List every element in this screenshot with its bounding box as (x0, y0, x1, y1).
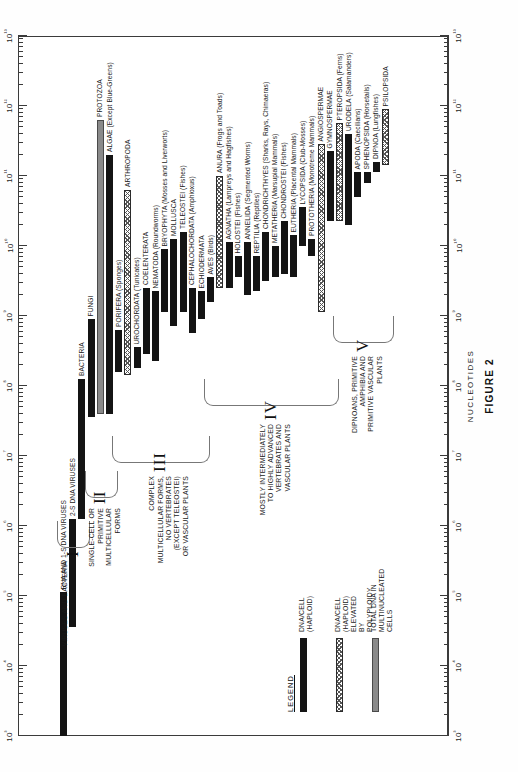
axis-tick-minor (444, 261, 449, 262)
axis-tick-minor (444, 611, 449, 612)
axis-tick-minor (444, 396, 449, 397)
axis-tick-minor (18, 318, 23, 319)
axis-tick-minor (444, 434, 449, 435)
axis-decade-label: 10¹³ (452, 29, 463, 43)
axis-tick-minor (18, 248, 23, 249)
axis-tick-minor (444, 322, 449, 323)
group-description: COMPLEX MULTICELLULAR FORMS, NO VERTEBRA… (148, 476, 190, 568)
axis-tick-minor (18, 681, 23, 682)
axis-decade-label: 10¹⁰ (452, 239, 464, 253)
taxon-bar (226, 243, 233, 289)
axis-tick-minor (444, 471, 449, 472)
legend-swatch-multi (372, 638, 379, 712)
axis-tick-major (440, 385, 449, 386)
taxon-bar-label: 2-S DNA VIRUSES (68, 458, 75, 516)
axis-tick-minor (444, 273, 449, 274)
axis-tick-minor (18, 294, 23, 295)
taxon-bar (262, 232, 269, 281)
axis-tick-minor (18, 256, 23, 257)
axis-tick-minor (18, 672, 23, 673)
axis-tick-minor (18, 38, 23, 39)
axis-tick-major (18, 735, 27, 736)
axis-tick-minor (18, 536, 23, 537)
group-description: VIRUSES AND BACTERIA (61, 561, 69, 653)
axis-tick-minor (444, 326, 449, 327)
axis-tick-minor (18, 606, 23, 607)
taxon-bar (216, 176, 223, 288)
axis-tick-minor (444, 483, 449, 484)
axis-tick-minor (18, 142, 23, 143)
axis-tick-minor (444, 528, 449, 529)
axis-tick-minor (444, 178, 449, 179)
axis-tick-minor (18, 56, 23, 57)
axis-tick-minor (444, 191, 449, 192)
axis-tick-minor (444, 182, 449, 183)
axis-tick-minor (18, 413, 23, 414)
group-roman-numeral: I (63, 550, 83, 557)
axis-tick-major (440, 735, 449, 736)
axis-tick-minor (444, 504, 449, 505)
axis-tick-minor (18, 406, 23, 407)
axis-tick-minor (18, 546, 23, 547)
axis-tick-minor (444, 602, 449, 603)
axis-tick-minor (18, 598, 23, 599)
axis-tick-major (18, 455, 27, 456)
axis-tick-minor (444, 546, 449, 547)
axis-tick-minor (444, 46, 449, 47)
axis-tick-minor (18, 632, 23, 633)
axis-tick-minor (18, 266, 23, 267)
taxon-bar-label: CHONDROSTEI (Fishes) (280, 142, 287, 218)
axis-tick-minor (444, 536, 449, 537)
axis-tick-minor (444, 282, 449, 283)
axis-tick-minor (18, 191, 23, 192)
axis-tick-minor (18, 352, 23, 353)
axis-tick-minor (18, 154, 23, 155)
axis-tick-minor (444, 248, 449, 249)
taxon-bar-label: UROCHORDATA (Tunicates) (133, 257, 140, 344)
taxon-bar-label: ANNELIDA (Segmented Worms) (243, 142, 250, 240)
taxon-bar (382, 110, 389, 166)
taxon-bar-label: HOLOSTEI (Fishes) (234, 193, 241, 254)
taxon-bar-label: ARTHROPODA (123, 140, 130, 187)
taxon-bar-label: BRYOPHYTA (Mosses and Liverworts) (160, 130, 167, 247)
axis-tick-minor (18, 336, 23, 337)
axis-tick-minor (444, 714, 449, 715)
figure-page: 10³10³10⁴10⁴10⁵10⁵10⁶10⁶10⁷10⁷10⁸10⁸10⁹1… (0, 0, 518, 772)
taxon-bar (318, 145, 325, 313)
axis-tick-minor (444, 154, 449, 155)
axis-tick-minor (444, 644, 449, 645)
taxon-bar (189, 288, 196, 334)
axis-decade-label: 10⁶ (3, 520, 14, 532)
taxon-bar (373, 162, 380, 173)
axis-tick-minor (444, 266, 449, 267)
axis-decade-label: 10⁹ (3, 310, 14, 322)
axis-tick-minor (18, 458, 23, 459)
axis-tick-major (18, 245, 27, 246)
axis-tick-minor (444, 364, 449, 365)
axis-tick-minor (18, 112, 23, 113)
axis-tick-minor (444, 318, 449, 319)
legend-swatch-solid (300, 638, 307, 712)
axis-tick-minor (18, 483, 23, 484)
axis-decade-label: 10⁵ (452, 590, 463, 602)
axis-tick-minor (18, 224, 23, 225)
taxon-bar-label: TELEOSTEI (Fishes) (179, 165, 186, 229)
axis-tick-minor (444, 72, 449, 73)
axis-tick-minor (444, 112, 449, 113)
axis-tick-minor (18, 331, 23, 332)
axis-decade-label: 10⁵ (3, 590, 14, 602)
taxon-bar-label: PROTOZOA (96, 79, 103, 117)
axis-tick-minor (444, 56, 449, 57)
axis-tick-minor (18, 46, 23, 47)
axis-tick-minor (18, 42, 23, 43)
axis-tick-minor (444, 623, 449, 624)
axis-tick-minor (444, 632, 449, 633)
axis-tick-minor (444, 606, 449, 607)
taxon-bar (235, 257, 242, 278)
axis-tick-minor (444, 142, 449, 143)
axis-tick-major (440, 175, 449, 176)
axis-tick-major (440, 455, 449, 456)
taxon-bar (180, 232, 187, 313)
axis-tick-minor (444, 256, 449, 257)
group-description: MOSTLY INTERMEDIATELY TO HIGHLY ADVANCED… (259, 424, 293, 516)
